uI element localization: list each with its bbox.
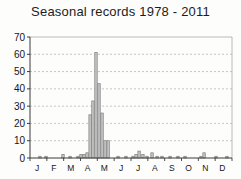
- x-month-label-3: A: [85, 163, 91, 173]
- bar-19: [138, 151, 140, 158]
- bar-8: [89, 115, 91, 158]
- x-month-label-9: O: [185, 163, 192, 173]
- y-tick-label-40: 40: [14, 83, 26, 94]
- y-tick-label-0: 0: [19, 153, 25, 164]
- bar-18: [135, 155, 137, 158]
- bar-5: [80, 155, 82, 158]
- bar-29: [203, 153, 205, 158]
- bar-10: [95, 53, 97, 158]
- y-tick-label-70: 70: [14, 32, 26, 43]
- y-tick-label-20: 20: [14, 118, 26, 129]
- y-tick-label-50: 50: [14, 66, 26, 77]
- x-month-label-8: S: [169, 163, 175, 173]
- bar-20: [142, 155, 144, 158]
- x-month-label-11: D: [219, 163, 225, 173]
- bar-2: [62, 155, 64, 158]
- seasonal-records-chart: Seasonal records 1978 - 2011 01020304050…: [0, 0, 241, 179]
- x-month-label-4: M: [101, 163, 108, 173]
- x-month-label-6: J: [136, 163, 140, 173]
- bar-11: [98, 84, 100, 158]
- bar-7: [86, 153, 88, 158]
- x-month-label-2: M: [67, 163, 74, 173]
- x-month-label-10: N: [202, 163, 208, 173]
- x-month-label-7: A: [152, 163, 158, 173]
- bar-22: [151, 153, 153, 158]
- y-tick-label-30: 30: [14, 101, 26, 112]
- bar-plot-canvas: 010203040506070JFMAMJJASOND: [0, 0, 241, 179]
- bar-6: [83, 155, 85, 158]
- y-tick-label-60: 60: [14, 49, 26, 60]
- x-month-label-5: J: [119, 163, 123, 173]
- bar-13: [104, 141, 106, 158]
- bar-9: [92, 101, 94, 158]
- x-month-label-0: J: [35, 163, 39, 173]
- y-tick-label-10: 10: [14, 135, 26, 146]
- bar-14: [107, 141, 109, 158]
- bar-12: [101, 113, 103, 158]
- x-month-label-1: F: [51, 163, 56, 173]
